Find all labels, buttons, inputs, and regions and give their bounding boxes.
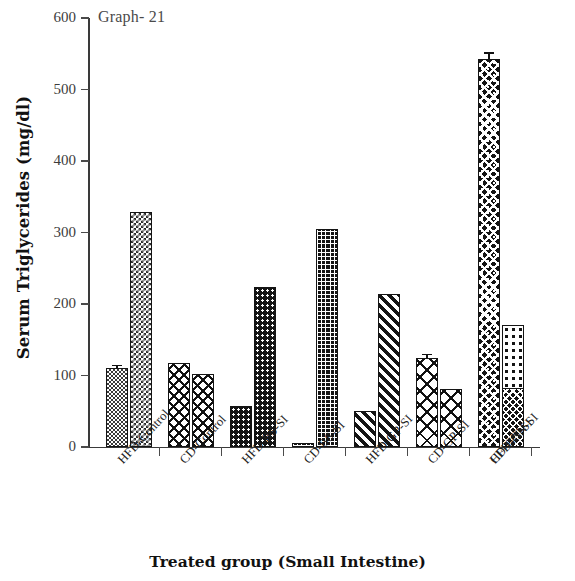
error-bar-cap (422, 354, 432, 356)
bar-hfd-control-1 (130, 212, 152, 447)
error-bar (488, 54, 490, 60)
y-axis-tick-label: 100 (30, 367, 76, 384)
error-bar (426, 355, 428, 357)
bars-layer (88, 18, 543, 447)
x-axis-tick (159, 447, 160, 456)
error-bar (116, 366, 118, 368)
y-axis-tick-label: 600 (30, 9, 76, 26)
error-bar-cap (484, 52, 494, 54)
x-axis-title: Treated group (Small Intestine) (0, 552, 575, 571)
bar-hfd-bs-si-4 (230, 406, 252, 447)
y-axis-tick-label: 400 (30, 152, 76, 169)
x-axis-tick (221, 447, 222, 456)
x-axis-tick (531, 447, 532, 456)
bar-cd-bs-si-7 (316, 229, 338, 447)
y-axis-tick-label: 500 (30, 81, 76, 98)
x-axis-tick (469, 447, 470, 456)
chart-figure: Serum Triglycerides (mg/dl) Graph- 21 01… (0, 0, 575, 581)
bar-hfd-control-0 (106, 368, 128, 447)
bar-cd-gp-si-10 (416, 358, 438, 447)
y-axis-tick-label: 200 (30, 295, 76, 312)
error-bar-cap (112, 365, 122, 367)
y-axis-tick-label: 300 (30, 224, 76, 241)
bar-hfd-gp-si-8 (354, 411, 376, 447)
x-axis-tick (407, 447, 408, 456)
x-axis-tick (345, 447, 346, 456)
y-axis-tick-label: 0 (30, 438, 76, 455)
bar-cd-control-2 (168, 363, 190, 447)
x-axis-tick (283, 447, 284, 456)
bar-cd-gn-si-14 (478, 59, 500, 447)
